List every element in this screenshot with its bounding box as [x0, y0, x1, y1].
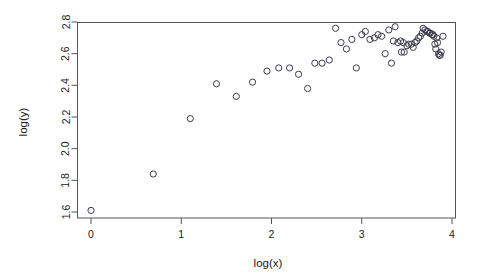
y-tick-label: 2.0 [60, 141, 72, 156]
y-tick-label: 2.6 [60, 46, 72, 61]
x-tick-label: 4 [449, 228, 455, 240]
x-tick-label: 1 [178, 228, 184, 240]
x-tick-label: 0 [88, 228, 94, 240]
y-axis-label: log(y) [17, 107, 29, 136]
x-axis-label: log(x) [254, 257, 283, 269]
x-tick-label: 2 [269, 228, 275, 240]
plot-canvas: 01234 1.61.82.02.22.42.62.8 log(x) log(y… [0, 0, 482, 280]
y-tick-label: 1.6 [60, 205, 72, 220]
y-tick-label: 2.2 [60, 110, 72, 125]
x-tick-label: 3 [359, 228, 365, 240]
scatter-plot-figure: 01234 1.61.82.02.22.42.62.8 log(x) log(y… [0, 0, 482, 280]
y-tick-label: 2.4 [60, 78, 72, 93]
y-tick-label: 1.8 [60, 173, 72, 188]
y-tick-label: 2.8 [60, 15, 72, 30]
